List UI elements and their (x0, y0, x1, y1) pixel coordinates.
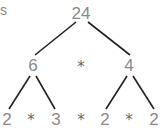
leaf-node: 2 (144, 111, 163, 128)
operator-multiply: * (122, 113, 136, 128)
edge-24-4 (88, 22, 130, 55)
node-root: 24 (71, 5, 91, 22)
operator-multiply: * (74, 113, 88, 128)
edge-24-6 (35, 22, 76, 55)
leaf-node: 2 (95, 111, 115, 128)
title-fragment: s (0, 3, 7, 17)
node-left: 6 (23, 57, 43, 74)
leaf-node: 2 (0, 111, 17, 128)
edge-6-3 (36, 76, 55, 109)
edge-4-2b (133, 76, 154, 109)
edge-4-2a (106, 76, 127, 109)
leaf-node: 3 (46, 111, 66, 128)
node-right: 4 (119, 57, 139, 74)
operator-multiply: * (74, 60, 88, 75)
edge-6-2 (9, 76, 30, 109)
operator-multiply: * (24, 113, 38, 128)
